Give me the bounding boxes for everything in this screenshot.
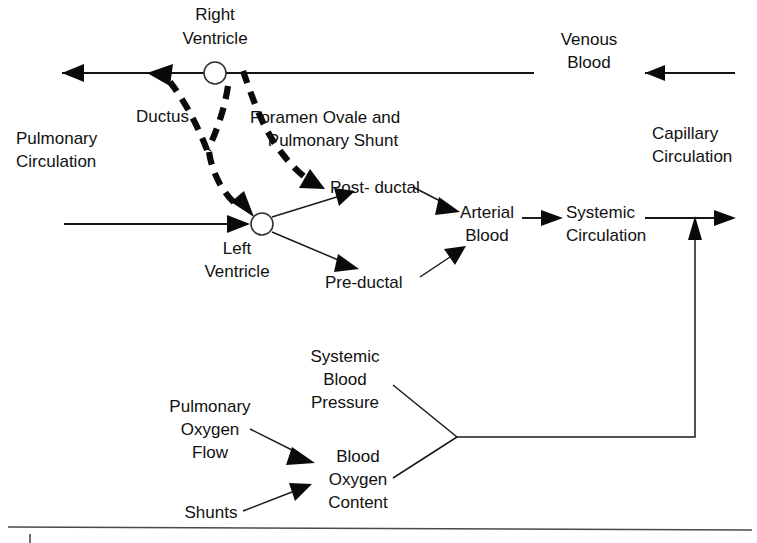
capillary-circulation-label-line2: Circulation [652, 147, 732, 166]
venous-blood-label-line2: Blood [567, 53, 610, 72]
pulmonary-oxygen-flow-label-line1: Pulmonary [169, 397, 251, 416]
arterial-to-systemic-edge [522, 210, 563, 226]
pre-ductal-label-text: Pre-ductal [325, 273, 402, 292]
systemic-blood-pressure-label-line1: Systemic [311, 347, 380, 366]
systemic-blood-pressure-label-line3: Pressure [311, 393, 379, 412]
arterial-blood-label-line1: Arterial [460, 203, 514, 222]
right-ventricle-node [204, 62, 226, 84]
foramen-ovale-to-left-ventricle-edge [209, 152, 254, 217]
right-ventricle-label: Right Ventricle [182, 5, 247, 48]
pre-ductal-to-arterial-edge [420, 246, 466, 277]
pulmonary-circulation-label-line1: Pulmonary [16, 129, 98, 148]
right-ventricle-label-line1: Right [195, 5, 235, 24]
oxygen-flow-to-content-edge [250, 429, 315, 465]
ductus-label: Ductus [136, 107, 189, 126]
post-ductal-label-text: Post- ductal [330, 178, 420, 197]
left-ventricle-to-pre-ductal-edge [272, 232, 359, 272]
left-ventricle-label-line1: Left [223, 239, 252, 258]
left-ventricle-node [251, 213, 273, 235]
capillary-circulation-label: Capillary Circulation [652, 124, 732, 166]
ductus-label-text: Ductus [136, 107, 189, 126]
foramen-ovale-label: Foramen Ovale and Pulmonary Shunt [250, 108, 400, 150]
blood-oxygen-junction-edge [393, 437, 457, 478]
pulmonary-oxygen-flow-label-line3: Flow [192, 443, 229, 462]
arterial-blood-label-line2: Blood [465, 226, 508, 245]
right-ventricle-label-line2: Ventricle [182, 29, 247, 48]
systemic-blood-pressure-label: Systemic Blood Pressure [311, 347, 380, 412]
pulmonary-circulation-label-line2: Circulation [16, 152, 96, 171]
footer-rule [8, 527, 752, 543]
systemic-outflow-edge [645, 210, 736, 226]
right-ventricle-to-pulmonary-edge [62, 64, 204, 82]
blood-oxygen-content-label-line2: Oxygen [329, 470, 388, 489]
pre-ductal-label: Pre-ductal [325, 273, 402, 292]
post-ductal-label: Post- ductal [330, 178, 420, 197]
pulmonary-to-left-ventricle-edge [64, 215, 250, 233]
systemic-circulation-label-line2: Circulation [566, 226, 646, 245]
arterial-blood-label: Arterial Blood [460, 203, 514, 245]
foramen-ovale-label-line1: Foramen Ovale and [250, 108, 400, 127]
blood-oxygen-content-label: Blood Oxygen Content [328, 447, 388, 512]
systemic-circulation-label-line1: Systemic [566, 203, 635, 222]
foramen-ovale-shunt-edge [243, 71, 325, 189]
post-ductal-to-arterial-edge [413, 187, 460, 215]
systemic-blood-pressure-label-line2: Blood [323, 370, 366, 389]
blood-oxygen-content-label-line3: Content [328, 493, 388, 512]
systemic-pressure-junction-edge [393, 385, 457, 437]
shunts-label: Shunts [185, 503, 238, 522]
venous-inflow-edge [645, 65, 735, 81]
shunts-label-text: Shunts [185, 503, 238, 522]
circulation-diagram: Right Ventricle Pulmonary Circulation Du… [0, 0, 757, 543]
left-ventricle-label-line2: Ventricle [204, 262, 269, 281]
diagram-canvas: Right Ventricle Pulmonary Circulation Du… [0, 0, 757, 543]
foramen-ovale-label-line2: Pulmonary Shunt [268, 131, 399, 150]
left-ventricle-label: Left Ventricle [204, 239, 269, 281]
systemic-circulation-label: Systemic Circulation [566, 203, 646, 245]
capillary-circulation-label-line1: Capillary [652, 124, 719, 143]
venous-blood-label-line1: Venous [561, 30, 618, 49]
shunts-to-content-edge [243, 483, 312, 511]
feedback-loop-edge [457, 216, 702, 437]
pulmonary-oxygen-flow-label: Pulmonary Oxygen Flow [169, 397, 251, 462]
pulmonary-oxygen-flow-label-line2: Oxygen [181, 420, 240, 439]
blood-oxygen-content-label-line1: Blood [336, 447, 379, 466]
venous-blood-label: Venous Blood [561, 30, 618, 72]
pulmonary-circulation-label: Pulmonary Circulation [16, 129, 98, 171]
